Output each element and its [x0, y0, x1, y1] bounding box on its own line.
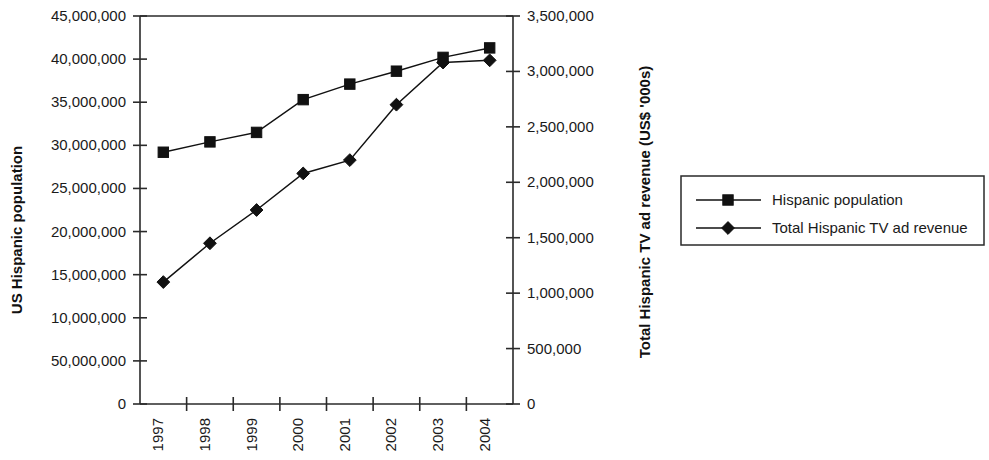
x-axis-ticks: 19971998199920002001200220032004: [149, 397, 492, 451]
right-axis-title: Total Hispanic TV ad revenue (US$ '000s): [636, 66, 653, 359]
x-axis-category-label: 2000: [289, 418, 306, 451]
x-axis-category-label: 2002: [382, 418, 399, 451]
data-point-square: [345, 79, 355, 89]
right-tick-label: 2,500,000: [527, 118, 594, 135]
data-point-square: [723, 195, 733, 205]
right-axis-ticks: 3,500,0003,000,0002,500,0002,000,0001,50…: [506, 7, 594, 412]
x-axis-category-label: 1999: [243, 418, 260, 451]
right-tick-label: 1,500,000: [527, 229, 594, 246]
right-tick-label: 1,000,000: [527, 284, 594, 301]
data-point-square: [158, 147, 168, 157]
left-tick-label: 40,000,000: [51, 50, 126, 67]
right-tick-label: 500,000: [527, 340, 581, 357]
left-tick-label: 10,000,000: [51, 309, 126, 326]
left-tick-label: 15,000,000: [51, 266, 126, 283]
x-axis-category-label: 2003: [429, 418, 446, 451]
x-axis-category-label: 1997: [149, 418, 166, 451]
left-axis-ticks: 45,000,00040,000,00035,000,00030,000,000…: [51, 7, 147, 412]
x-axis-category-label: 2004: [476, 418, 493, 451]
x-axis-category-label: 1998: [196, 418, 213, 451]
legend-item-label: Hispanic population: [772, 191, 903, 208]
left-tick-label: 20,000,000: [51, 223, 126, 240]
axis-frame: [140, 16, 513, 404]
series-2: [157, 54, 496, 289]
data-point-square: [251, 127, 261, 137]
right-tick-label: 0: [527, 395, 535, 412]
left-tick-label: 30,000,000: [51, 136, 126, 153]
data-point-square: [298, 94, 308, 104]
data-point-square: [205, 137, 215, 147]
left-tick-label: 50,000,000: [51, 352, 126, 369]
data-point-diamond: [483, 54, 496, 67]
right-tick-label: 3,500,000: [527, 7, 594, 24]
series-layer: [157, 43, 496, 289]
left-tick-label: 35,000,000: [51, 93, 126, 110]
data-point-diamond: [297, 167, 310, 180]
left-tick-label: 0: [118, 395, 126, 412]
legend: Hispanic populationTotal Hispanic TV ad …: [681, 176, 984, 245]
data-point-square: [391, 66, 401, 76]
left-axis-title-text: US Hispanic population: [8, 146, 25, 314]
right-tick-label: 2,000,000: [527, 173, 594, 190]
legend-item-label: Total Hispanic TV ad revenue: [772, 219, 968, 236]
right-tick-label: 3,000,000: [527, 62, 594, 79]
series-line: [163, 60, 489, 282]
chart-page: US Hispanic population Total Hispanic TV…: [0, 0, 989, 460]
data-point-square: [484, 43, 494, 53]
right-axis-title-text: Total Hispanic TV ad revenue (US$ '000s): [636, 66, 653, 359]
left-tick-label: 45,000,000: [51, 7, 126, 24]
left-axis-title: US Hispanic population: [8, 146, 25, 314]
x-axis-category-label: 2001: [336, 418, 353, 451]
dual-axis-line-chart: US Hispanic population Total Hispanic TV…: [0, 0, 989, 460]
left-tick-label: 25,000,000: [51, 179, 126, 196]
data-point-diamond: [250, 204, 263, 217]
